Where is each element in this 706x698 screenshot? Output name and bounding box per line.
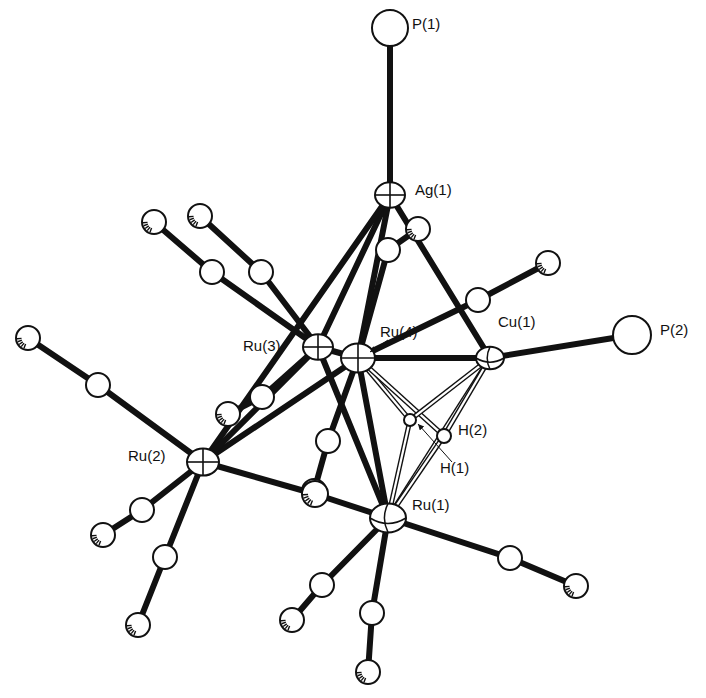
- oxygen-atom: [280, 608, 304, 632]
- carbonyl-ligand: [216, 347, 318, 426]
- oxygen-atom: [188, 204, 212, 228]
- carbon-atom: [376, 238, 400, 262]
- carbon-atom: [86, 373, 110, 397]
- atom-label-ru2: Ru(2): [128, 448, 166, 463]
- atom-label-cu1: Cu(1): [498, 314, 536, 329]
- atom-ru3: [303, 334, 333, 360]
- carbonyl-ligand: [388, 518, 588, 598]
- bond-Ru4-H2: [366, 365, 441, 433]
- oxygen-atom: [406, 217, 430, 241]
- atom-h2: [437, 429, 451, 443]
- bond-Ru4-H1: [365, 366, 408, 417]
- carbon-atom: [249, 260, 273, 284]
- atom-label-ru1: Ru(1): [412, 497, 450, 512]
- carbonyl-ligand: [16, 326, 203, 462]
- atom-ru2: [187, 448, 219, 475]
- atom-p2: [613, 316, 651, 354]
- oxygen-atom: [356, 660, 380, 684]
- bond-Ru2-Ru1: [203, 462, 388, 518]
- carbon-atom: [316, 429, 340, 453]
- atom-cu1: [476, 347, 504, 369]
- carbon-atom: [250, 385, 274, 409]
- carbon-atom: [310, 573, 334, 597]
- atom-label-ru4: Ru(4): [380, 324, 418, 339]
- atom-label-ag1: Ag(1): [415, 182, 452, 197]
- carbon-atom: [130, 498, 154, 522]
- atom-ru1: [370, 504, 406, 533]
- bond-Cu1-P2: [490, 335, 632, 358]
- carbonyl-ligands-layer: [16, 204, 588, 684]
- oxygen-atom: [536, 251, 560, 275]
- carbon-atom: [466, 288, 490, 312]
- oxygen-atom: [16, 326, 40, 350]
- molecular-structure-figure: [0, 0, 706, 698]
- carbonyl-ligand: [142, 210, 318, 347]
- atom-label-p2: P(2): [660, 322, 688, 337]
- atom-p1: [372, 10, 408, 46]
- atom-label-p1: P(1): [412, 16, 440, 31]
- carbonyl-ligand: [126, 462, 203, 637]
- oxygen-atom: [91, 523, 115, 547]
- oxygen-atom: [142, 210, 166, 234]
- atom-label-h1: H(1): [440, 460, 469, 475]
- atom-label-h2: H(2): [458, 422, 487, 437]
- atom-ag1: [375, 182, 405, 208]
- carbon-atom: [360, 601, 384, 625]
- oxygen-atom: [216, 402, 240, 426]
- atom-label-ru3: Ru(3): [243, 338, 281, 353]
- bridging-carbonyl: [302, 481, 328, 507]
- carbon-atom: [200, 260, 224, 284]
- oxygen-atom: [126, 613, 150, 637]
- oxygen-atom: [564, 574, 588, 598]
- atom-h1: [404, 414, 416, 426]
- carbon-atom: [498, 546, 522, 570]
- atom-ru4: [341, 344, 375, 373]
- carbon-atom: [153, 545, 177, 569]
